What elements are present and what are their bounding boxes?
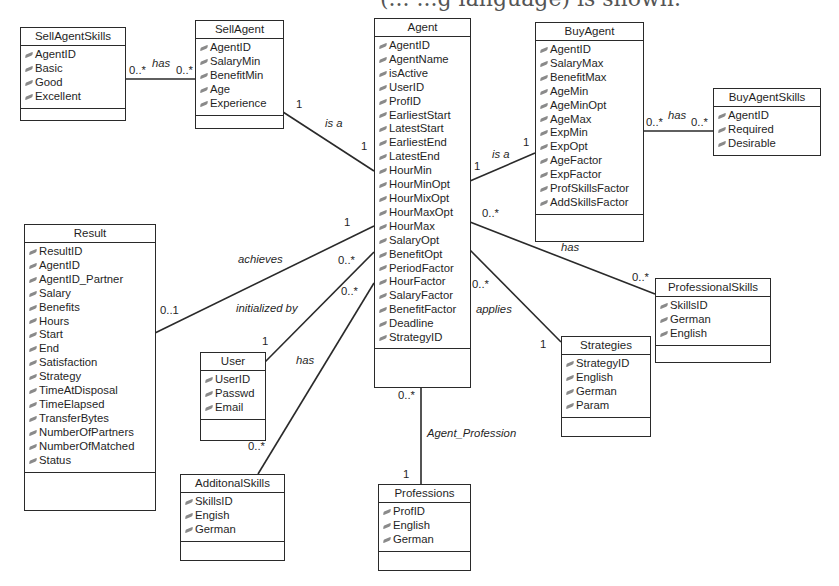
attribute-icon (29, 304, 37, 310)
attribute: Salary (30, 287, 152, 301)
attribute: German (567, 385, 647, 399)
attribute-icon (379, 237, 387, 243)
attribute-icon (566, 389, 574, 395)
attribute: StrategyID (567, 357, 647, 371)
attribute-icon (29, 374, 37, 380)
attribute-icon (540, 172, 548, 178)
association-label: has (668, 109, 686, 121)
association-label: is a (325, 117, 343, 129)
attribute: AgeMax (541, 113, 640, 127)
attribute: ExpOpt (541, 140, 640, 154)
class-agent[interactable]: Agent AgentID AgentName isActive UserID … (374, 18, 471, 388)
attribute-icon (379, 265, 387, 271)
attribute-icon (29, 332, 37, 338)
class-additonalskills[interactable]: AdditonalSkills SkillsID Engish German (180, 474, 285, 561)
attribute: Required (719, 123, 817, 137)
attribute: SalaryMin (201, 55, 280, 69)
attribute-icon (379, 251, 387, 257)
class-result[interactable]: Result ResultID AgentID AgentID_Partner … (24, 224, 156, 511)
attribute: English (567, 371, 647, 385)
class-title: BuyAgent (536, 23, 643, 41)
multiplicity: 0..* (398, 389, 415, 401)
attribute-icon (29, 346, 37, 352)
attribute-icon (379, 210, 387, 216)
attribute: AgentName (380, 53, 467, 67)
class-professions[interactable]: Professions ProfID English German (378, 484, 471, 571)
class-sellagent[interactable]: SellAgent AgentID SalaryMin BenefitMin A… (195, 20, 284, 129)
attribute: ResultID (30, 245, 152, 259)
attribute: AgentID (201, 41, 280, 55)
association-label: Agent_Profession (427, 427, 516, 439)
attribute: HourMixOpt (380, 192, 467, 206)
attribute-list: AgentID SalaryMax BenefitMax AgeMin AgeM… (536, 41, 643, 215)
attribute: Param (567, 399, 647, 413)
association-label: is a (492, 148, 510, 160)
multiplicity: 1 (262, 335, 268, 347)
class-buyagent[interactable]: BuyAgent AgentID SalaryMax BenefitMax Ag… (535, 22, 644, 242)
attribute-icon (540, 130, 548, 136)
class-buyagentskills[interactable]: BuyAgentSkills AgentID Required Desirabl… (713, 88, 821, 156)
attribute: Benefits (30, 301, 152, 315)
attribute-icon (379, 126, 387, 132)
attribute: UserID (380, 81, 467, 95)
multiplicity: 1 (296, 98, 302, 110)
association-label: initialized by (236, 302, 298, 314)
attribute-icon (379, 57, 387, 63)
attribute: English (661, 327, 767, 341)
attribute-icon (379, 307, 387, 313)
attribute-icon (540, 186, 548, 192)
attribute-list: AgentID Basic Good Excellent (21, 46, 125, 109)
attribute: HourMax (380, 220, 467, 234)
attribute: Experience (201, 97, 280, 111)
attribute-icon (379, 112, 387, 118)
attribute-list: UserID Passwd Email (201, 371, 265, 420)
attribute-icon (660, 317, 668, 323)
attribute-icon (29, 263, 37, 269)
attribute-icon (718, 127, 726, 133)
attribute-icon (185, 499, 193, 505)
attribute-list: StrategyID English German Param (562, 355, 650, 418)
attribute: ExpMin (541, 126, 640, 140)
attribute: AgentID_Partner (30, 273, 152, 287)
attribute: PeriodFactor (380, 262, 467, 276)
attribute-icon (379, 140, 387, 146)
multiplicity: 1 (344, 216, 350, 228)
association-label: achieves (238, 253, 283, 265)
class-title: SellAgentSkills (21, 28, 125, 46)
attribute: Excellent (26, 90, 122, 104)
attribute-icon (379, 43, 387, 49)
class-strategies[interactable]: Strategies StrategyID English German Par… (561, 336, 651, 437)
attribute: TransferBytes (30, 412, 152, 426)
association-label: applies (476, 303, 512, 315)
attribute-list: SkillsID German English (656, 297, 770, 346)
attribute: ProfSkillsFactor (541, 182, 640, 196)
attribute: Passwd (206, 387, 262, 401)
attribute-icon (29, 416, 37, 422)
attribute: German (661, 313, 767, 327)
attribute-icon (29, 443, 37, 449)
attribute: Status (30, 454, 152, 468)
attribute-icon (379, 168, 387, 174)
attribute: SkillsID (661, 299, 767, 313)
class-title: Professions (379, 485, 470, 503)
attribute: HourFactor (380, 275, 467, 289)
attribute-icon (540, 102, 548, 108)
attribute-icon (379, 224, 387, 230)
attribute-icon (379, 293, 387, 299)
attribute-icon (200, 59, 208, 65)
class-sellagentskills[interactable]: SellAgentSkills AgentID Basic Good Excel… (20, 27, 126, 121)
attribute: Engish (186, 509, 281, 523)
attribute-icon (379, 71, 387, 77)
class-user[interactable]: User UserID Passwd Email (200, 352, 266, 441)
class-professionalskills[interactable]: ProfessionalSkills SkillsID German Engli… (655, 278, 771, 363)
multiplicity: 1 (540, 338, 546, 350)
attribute-icon (29, 388, 37, 394)
attribute: AddSkillsFactor (541, 196, 640, 210)
attribute: AgentID (26, 48, 122, 62)
attribute-icon (29, 277, 37, 283)
attribute-icon (29, 360, 37, 366)
attribute-icon (540, 116, 548, 122)
attribute-icon (540, 158, 548, 164)
attribute-icon (29, 290, 37, 296)
attribute-icon (540, 47, 548, 53)
